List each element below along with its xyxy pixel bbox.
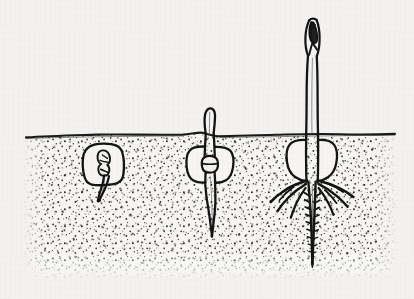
stage-2-stem-left-upper	[205, 133, 206, 157]
stage-3-hypocotyl-right	[318, 134, 319, 183]
germination-figure: Seed germination sequence Line drawing c…	[0, 0, 414, 299]
soil-region	[24, 130, 396, 280]
stage-2-node-crease	[202, 164, 217, 165]
stage-3-hypocotyl-left	[306, 134, 307, 183]
soil-side-fade	[24, 130, 396, 280]
stage-1-radicle-tip	[98, 201, 100, 202]
stage-2-stem-right-upper	[214, 134, 215, 157]
germination-diagram-svg	[0, 0, 414, 299]
stage-3-stem-right-edge	[317, 56, 318, 133]
